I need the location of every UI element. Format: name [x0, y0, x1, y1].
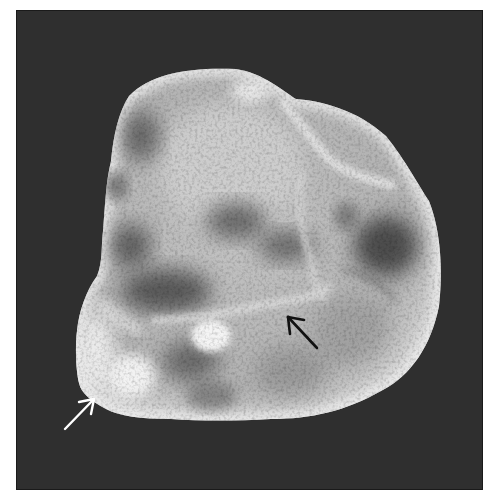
white-arrow-icon	[65, 399, 94, 429]
photo-frame	[16, 10, 483, 490]
specimen-texture	[17, 11, 483, 490]
specimen-photo	[17, 11, 483, 490]
